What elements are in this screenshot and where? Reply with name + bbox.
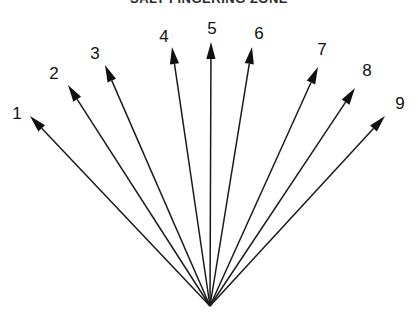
arrow-head-icon [170, 47, 179, 64]
arrow-head-icon [245, 47, 254, 65]
arrow-head-icon [105, 65, 116, 82]
arrow-head-icon [206, 42, 215, 59]
arrow-label-5: 5 [207, 20, 216, 37]
arrow-fan-canvas [0, 0, 418, 317]
arrow-label-1: 1 [12, 105, 21, 122]
arrow-shaft [210, 59, 211, 306]
arrow-label-7: 7 [317, 41, 326, 58]
arrow-label-6: 6 [254, 25, 263, 42]
arrow-label-4: 4 [159, 28, 168, 45]
arrow-group [30, 42, 385, 306]
arrow-shaft [210, 102, 346, 306]
arrow-label-2: 2 [49, 65, 58, 82]
arrow-head-icon [307, 67, 318, 84]
arrow-label-9: 9 [395, 95, 404, 112]
arrow-head-icon [68, 85, 81, 102]
arrow-label-8: 8 [362, 62, 371, 79]
arrow-shaft [42, 128, 210, 306]
arrow-shaft [174, 64, 210, 306]
arrow-shaft [77, 99, 210, 306]
salt-fingering-zone-figure: SALT FINGERING ZONE 123456789 [0, 0, 418, 317]
arrow-shaft [112, 81, 210, 306]
arrow-shaft [210, 82, 311, 306]
arrow-label-3: 3 [90, 45, 99, 62]
arrow-head-icon [342, 88, 355, 105]
